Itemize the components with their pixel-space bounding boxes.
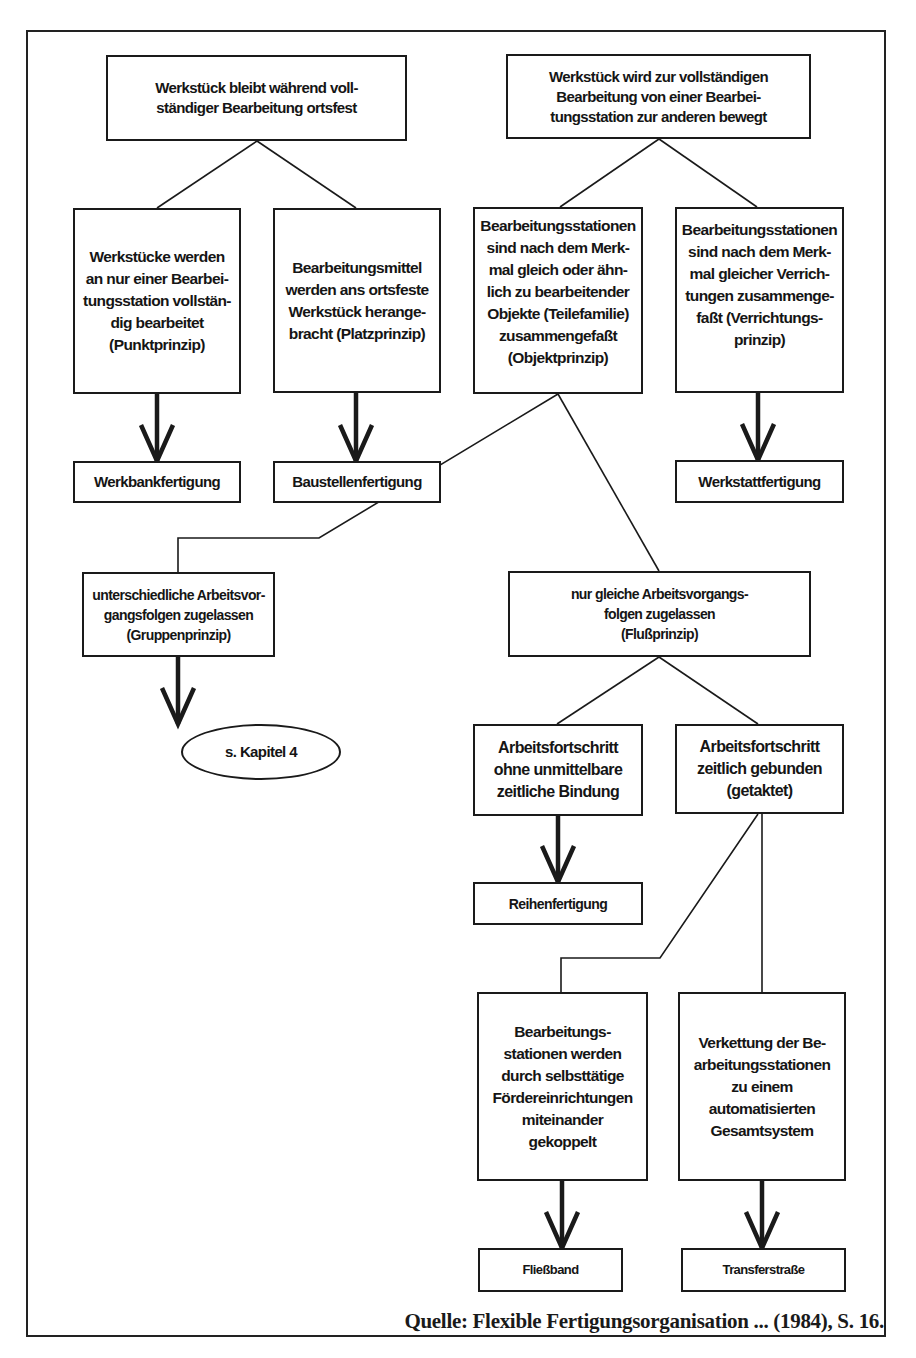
node-fliessband: Fließband [478,1248,623,1292]
edge-fluss-getaktet [659,657,758,724]
node-getaktet: Arbeitsfortschritt zeitlich gebunden (ge… [675,724,844,814]
node-punktprinzip: Werkstücke werden an nur einer Bearbei- … [73,208,241,394]
edge-moving-verrichtung [659,139,757,207]
node-moving: Werkstück wird zur vollständigen Bearbei… [506,54,811,139]
node-flussprinzip: nur gleiche Arbeitsvorgangs- folgen zuge… [508,571,811,657]
node-baustellenfertigung: Baustellenfertigung [273,461,441,503]
edge-fluss-ungebunden [557,657,659,724]
node-verkettung: Verkettung der Be- arbeitungsstationen z… [678,992,846,1181]
node-werkstattfertigung: Werkstattfertigung [675,460,844,503]
node-ungebunden: Arbeitsfortschritt ohne unmittelbare zei… [473,724,643,816]
edge-stationary-punkt [157,141,257,208]
node-objektprinzip: Bearbeitungsstationen sind nach dem Merk… [473,207,643,394]
node-werkbankfertigung: Werkbankfertigung [73,461,241,503]
source-caption: Quelle: Flexible Fertigungsorganisation … [404,1309,884,1334]
node-foerdereinrichtungen: Bearbeitungs- stationen werden durch sel… [477,992,648,1181]
node-platzprinzip: Bearbeitungsmittel werden ans ortsfeste … [273,208,441,393]
node-kapitel4: s. Kapitel 4 [181,724,341,780]
diagram-stage: Werkstück bleibt während voll- ständiger… [0,0,916,1358]
node-reihenfertigung: Reihenfertigung [473,882,643,925]
node-gruppenprinzip: unterschiedliche Arbeitsvor- gangsfolgen… [82,572,275,657]
edge-moving-objekt [560,139,659,207]
node-verrichtungsprinzip: Bearbeitungsstationen sind nach dem Merk… [675,207,844,393]
node-transferstrasse: Transferstraße [681,1248,846,1292]
edge-objekt-fluss [558,394,659,571]
node-stationary: Werkstück bleibt während voll- ständiger… [106,55,407,141]
edge-stationary-platz [257,141,356,208]
